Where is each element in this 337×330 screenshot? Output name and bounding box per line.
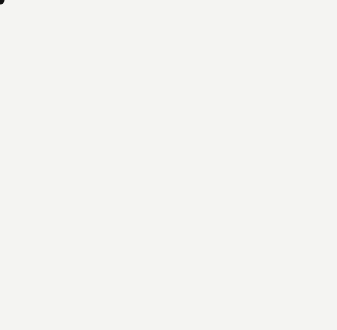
origin-point [0,0,5,5]
circle-graph [0,0,337,330]
